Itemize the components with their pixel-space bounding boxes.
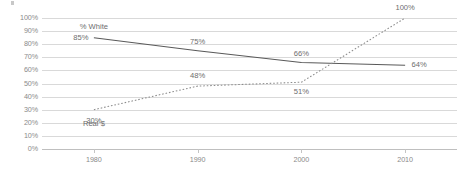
data-point-label: 66% <box>294 50 309 58</box>
data-point-label: 51% <box>294 88 309 96</box>
series-annotation-label: % White <box>80 23 108 31</box>
series-layer <box>42 18 457 149</box>
series-annotation-label: Real $ <box>83 120 105 128</box>
y-tick-label: 0% <box>28 145 38 152</box>
data-point-label: 85% <box>73 34 88 42</box>
x-axis: 1980199020002010 <box>42 149 457 179</box>
data-point-label: 48% <box>190 72 205 80</box>
data-point-label: 64% <box>412 61 427 69</box>
y-tick-label: 70% <box>24 54 38 61</box>
y-tick-label: 30% <box>24 106 38 113</box>
x-tick-mark <box>405 149 406 153</box>
series-line-pct-white <box>94 38 405 66</box>
y-tick-label: 90% <box>24 27 38 34</box>
plot-area: 85%75%66%64%30%48%51%100%% WhiteReal $ <box>42 18 457 149</box>
y-tick-label: 100% <box>20 14 38 21</box>
x-tick-label: 2000 <box>294 156 310 163</box>
y-axis: 0%10%20%30%40%50%60%70%80%90%100% <box>0 18 40 149</box>
x-tick-label: 1980 <box>86 156 102 163</box>
data-point-label: 75% <box>190 38 205 46</box>
x-tick-mark <box>94 149 95 153</box>
y-tick-label: 40% <box>24 93 38 100</box>
x-tick-mark <box>198 149 199 153</box>
y-tick-label: 10% <box>24 132 38 139</box>
data-point-label: 100% <box>395 4 414 12</box>
x-tick-label: 1990 <box>190 156 206 163</box>
x-tick-label: 2010 <box>397 156 413 163</box>
x-tick-mark <box>301 149 302 153</box>
line-chart: 0%10%20%30%40%50%60%70%80%90%100% 85%75%… <box>0 0 463 183</box>
y-tick-label: 60% <box>24 67 38 74</box>
y-tick-label: 80% <box>24 41 38 48</box>
y-tick-label: 20% <box>24 119 38 126</box>
y-tick-label: 50% <box>24 80 38 87</box>
crop-artifact-mark <box>11 1 14 5</box>
